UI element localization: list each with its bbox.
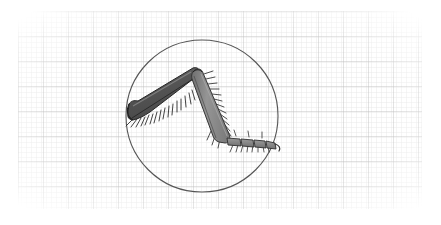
figure-canvas — [0, 0, 441, 225]
tarsomere-2 — [241, 139, 254, 147]
specimen-figure — [0, 0, 441, 225]
tarsomere-3 — [254, 140, 266, 148]
tarsomere-1 — [227, 138, 241, 146]
